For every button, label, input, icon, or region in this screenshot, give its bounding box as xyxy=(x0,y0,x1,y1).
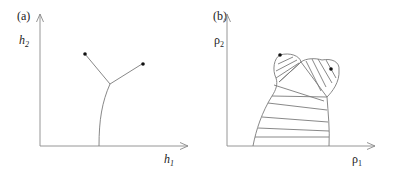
panel-b: (b) ρ2 ρ1 xyxy=(213,9,375,168)
hatch-line xyxy=(279,62,301,82)
right-lobe-dot xyxy=(329,67,333,71)
hatch-line xyxy=(318,59,332,83)
hatch-line xyxy=(268,103,327,110)
figure: (a) h2 h1 (b) ρ2 ρ1 xyxy=(0,0,394,172)
region-boundary xyxy=(253,54,339,146)
panel-a-tag: (a) xyxy=(17,9,30,23)
x-axis-label-a: h1 xyxy=(164,152,174,168)
x-axis-label-b: ρ1 xyxy=(352,152,362,168)
y-axis-label-a: h2 xyxy=(19,33,29,49)
left-lobe-dot xyxy=(278,53,282,57)
right-branch xyxy=(110,64,142,84)
hatch-line xyxy=(258,128,329,131)
hatch-line xyxy=(272,96,327,97)
right-endpoint-dot xyxy=(141,62,145,66)
panel-a: (a) h2 h1 xyxy=(17,9,188,168)
left-branch xyxy=(85,54,110,84)
hatch-line xyxy=(274,85,324,101)
hatch-line xyxy=(312,59,326,87)
stem-curve xyxy=(99,84,110,146)
left-endpoint-dot xyxy=(83,52,87,56)
hatch-line xyxy=(262,117,328,122)
y-axis-label-b: ρ2 xyxy=(214,33,224,49)
panel-b-tag: (b) xyxy=(213,9,227,23)
hatch-line xyxy=(276,60,297,71)
